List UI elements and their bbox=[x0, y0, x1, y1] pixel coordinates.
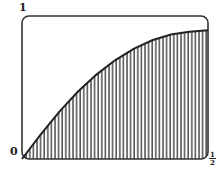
y-tick-1: 1 bbox=[19, 2, 27, 13]
hatched-area bbox=[22, 30, 208, 159]
x-tick-half: 1 2 bbox=[209, 151, 216, 166]
x-tick-0: 0 bbox=[10, 146, 18, 157]
fraction-denominator: 2 bbox=[210, 158, 215, 167]
plot bbox=[0, 0, 219, 170]
